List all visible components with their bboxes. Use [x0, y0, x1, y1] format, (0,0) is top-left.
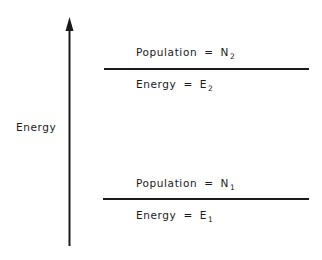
energy-text: Energy	[136, 209, 176, 221]
energy-subscript: 2	[208, 84, 213, 93]
upper-population-label: Population=N2	[136, 46, 235, 58]
energy-symbol: E	[200, 78, 207, 90]
equals-sign: =	[183, 78, 192, 90]
lower-energy-label: Energy=E1	[136, 209, 213, 221]
upper-energy-level-line	[104, 68, 309, 70]
energy-symbol: E	[200, 209, 207, 221]
population-symbol: N	[221, 177, 229, 189]
energy-subscript: 1	[208, 215, 213, 224]
upper-energy-label: Energy=E2	[136, 78, 213, 90]
arrowhead-icon	[66, 17, 74, 31]
energy-text: Energy	[136, 78, 176, 90]
lower-population-label: Population=N1	[136, 177, 235, 189]
lower-energy-level-line	[103, 198, 309, 200]
population-subscript: 2	[230, 52, 235, 61]
axis-label: Energy	[16, 121, 56, 133]
equals-sign: =	[183, 209, 192, 221]
population-text: Population	[136, 177, 197, 189]
equals-sign: =	[204, 46, 213, 58]
population-subscript: 1	[230, 183, 235, 192]
population-symbol: N	[221, 46, 229, 58]
population-text: Population	[136, 46, 197, 58]
equals-sign: =	[204, 177, 213, 189]
